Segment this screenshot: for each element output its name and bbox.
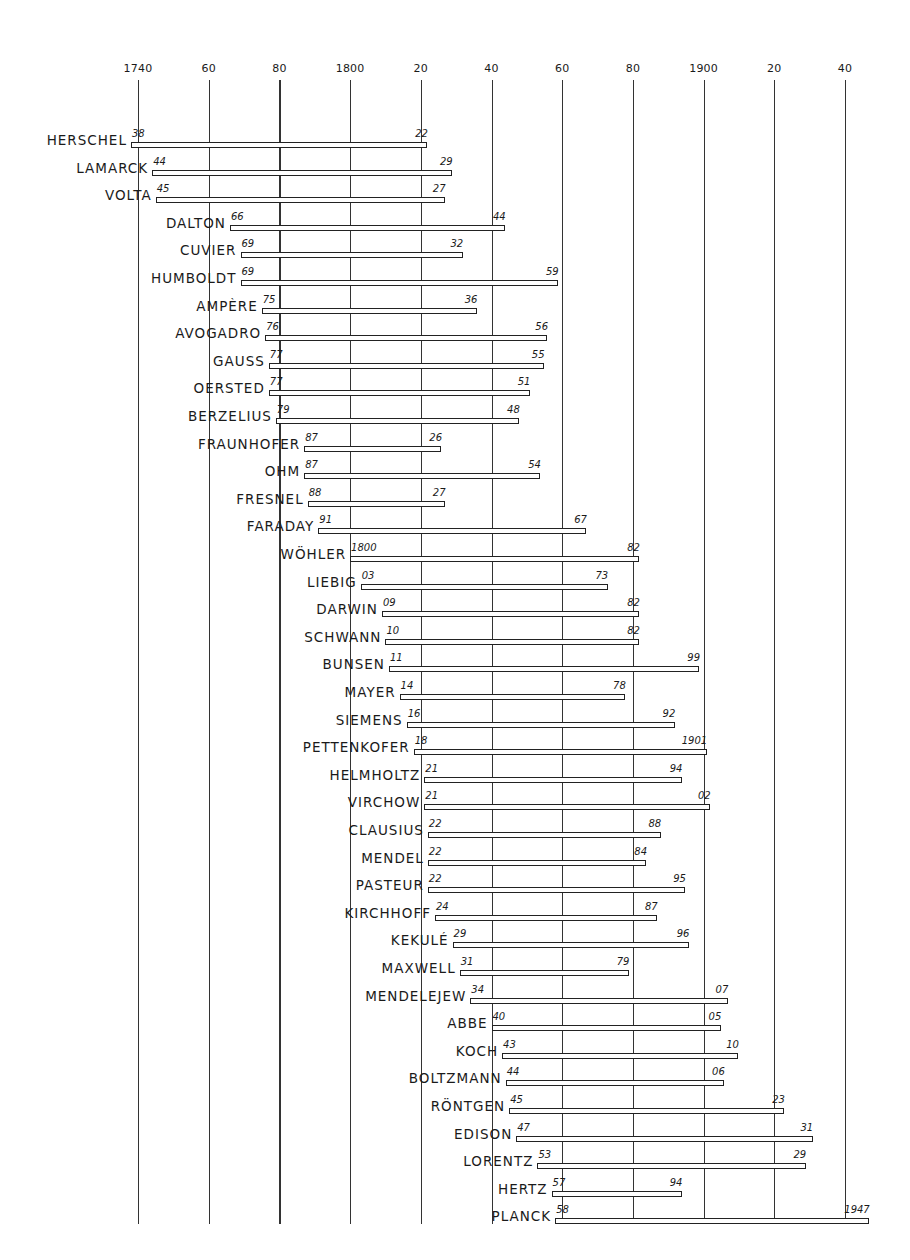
death-year-label: 27: [433, 183, 446, 194]
scientist-name: BUNSEN: [323, 656, 385, 672]
lifespan-bar: [428, 860, 647, 866]
birth-year-label: 43: [503, 1039, 516, 1050]
death-year-label: 99: [687, 652, 700, 663]
lifespan-bar: [470, 998, 727, 1004]
lifespan-bar: [537, 1163, 805, 1169]
gridline: [845, 80, 846, 1224]
birth-year-label: 69: [242, 266, 255, 277]
birth-year-label: 29: [454, 928, 467, 939]
x-tick-label: 60: [555, 62, 569, 75]
birth-year-label: 77: [270, 349, 283, 360]
x-tick-label: 80: [626, 62, 640, 75]
x-tick-label: 80: [272, 62, 286, 75]
birth-year-label: 47: [517, 1122, 530, 1133]
lifespan-bar: [492, 1025, 721, 1031]
scientist-name: KEKULÉ: [391, 932, 449, 948]
lifespan-bar: [276, 418, 519, 424]
lifespan-bar: [460, 970, 629, 976]
lifespan-bar: [502, 1053, 738, 1059]
lifespan-bar: [428, 832, 661, 838]
birth-year-label: 79: [277, 404, 290, 415]
x-tick-label: 1800: [336, 62, 365, 75]
scientist-name: GAUSS: [213, 353, 265, 369]
scientist-name: MAXWELL: [382, 960, 456, 976]
scientist-name: VOLTA: [105, 187, 152, 203]
death-year-label: 05: [709, 1011, 722, 1022]
birth-year-label: 77: [270, 376, 283, 387]
death-year-label: 23: [772, 1094, 785, 1105]
lifespan-bar: [262, 308, 477, 314]
lifespan-bar: [308, 501, 445, 507]
death-year-label: 94: [670, 1177, 683, 1188]
death-year-label: 1947: [844, 1204, 869, 1215]
lifespan-bar: [414, 749, 707, 755]
death-year-label: 82: [627, 542, 640, 553]
lifespan-bar: [407, 722, 675, 728]
scientist-name: RÖNTGEN: [431, 1098, 505, 1114]
birth-year-label: 11: [390, 652, 403, 663]
birth-year-label: 44: [507, 1066, 520, 1077]
scientist-name: EDISON: [454, 1126, 512, 1142]
birth-year-label: 10: [386, 625, 399, 636]
scientist-name: HERTZ: [498, 1181, 548, 1197]
death-year-label: 07: [716, 984, 729, 995]
lifespan-bar: [156, 197, 445, 203]
scientist-name: AVOGADRO: [175, 325, 261, 341]
death-year-label: 67: [574, 514, 587, 525]
scientist-name: SIEMENS: [336, 712, 403, 728]
scientist-name: CLAUSIUS: [348, 822, 423, 838]
lifespan-bar: [269, 363, 544, 369]
lifespan-bar: [241, 252, 463, 258]
x-tick-label: 40: [838, 62, 852, 75]
lifespan-bar: [428, 887, 685, 893]
death-year-label: 26: [429, 432, 442, 443]
death-year-label: 88: [648, 818, 661, 829]
scientist-name: CUVIER: [180, 242, 236, 258]
birth-year-label: 45: [157, 183, 170, 194]
birth-year-label: 18: [415, 735, 428, 746]
death-year-label: 59: [546, 266, 559, 277]
scientist-name: LAMARCK: [76, 160, 148, 176]
birth-year-label: 87: [305, 459, 318, 470]
birth-year-label: 40: [493, 1011, 506, 1022]
scientist-name: MENDELEJEW: [365, 988, 466, 1004]
lifespan-bar: [318, 528, 586, 534]
birth-year-label: 58: [556, 1204, 569, 1215]
birth-year-label: 69: [242, 238, 255, 249]
x-tick-label: 20: [414, 62, 428, 75]
scientist-name: HERSCHEL: [47, 132, 127, 148]
birth-year-label: 91: [319, 514, 332, 525]
death-year-label: 48: [507, 404, 520, 415]
birth-year-label: 14: [401, 680, 414, 691]
lifespan-bar: [304, 446, 441, 452]
death-year-label: 36: [465, 294, 478, 305]
death-year-label: 51: [518, 376, 531, 387]
birth-year-label: 22: [429, 846, 442, 857]
birth-year-label: 21: [425, 790, 438, 801]
scientist-name: KOCH: [456, 1043, 498, 1059]
scientist-name: OERSTED: [194, 380, 265, 396]
scientist-name: HUMBOLDT: [151, 270, 237, 286]
death-year-label: 44: [493, 211, 506, 222]
scientist-name: WÖHLER: [281, 546, 347, 562]
scientist-name: PLANCK: [492, 1208, 552, 1224]
scientist-name: DALTON: [166, 215, 226, 231]
birth-year-label: 16: [408, 708, 421, 719]
lifespan-bar: [350, 556, 639, 562]
scientist-name: LIEBIG: [307, 574, 357, 590]
death-year-label: 94: [670, 763, 683, 774]
lifespan-bar: [435, 915, 657, 921]
x-tick-label: 1900: [689, 62, 718, 75]
lifespan-bar: [382, 611, 639, 617]
death-year-label: 32: [450, 238, 463, 249]
birth-year-label: 1800: [351, 542, 376, 553]
birth-year-label: 24: [436, 901, 449, 912]
lifespan-bar: [230, 225, 505, 231]
birth-year-label: 21: [425, 763, 438, 774]
scientist-name: ABBE: [447, 1015, 487, 1031]
lifespan-bar: [361, 584, 608, 590]
lifespan-bar: [552, 1191, 682, 1197]
death-year-label: 22: [415, 128, 428, 139]
death-year-label: 54: [528, 459, 541, 470]
birth-year-label: 38: [132, 128, 145, 139]
